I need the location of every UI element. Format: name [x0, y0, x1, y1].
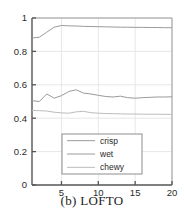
y-tick-label-0.6: 0.6	[14, 79, 27, 90]
chart-legend[interactable]: crispwetchewy	[62, 134, 142, 174]
legend-label-chewy: chewy	[100, 162, 125, 172]
line-chart: 00.20.40.60.81 5101520 crispwetchewy	[0, 0, 184, 196]
y-axis-tick-labels: 00.20.40.60.81	[14, 12, 27, 190]
legend-label-crisp: crisp	[100, 136, 118, 146]
y-tick-label-0.2: 0.2	[14, 146, 27, 157]
y-tick-label-0: 0	[22, 179, 27, 190]
legend-label-wet: wet	[99, 149, 114, 159]
figure-panel: 00.20.40.60.81 5101520 crispwetchewy (b)…	[0, 0, 184, 216]
y-tick-label-1: 1	[22, 12, 27, 23]
y-tick-label-0.4: 0.4	[14, 113, 27, 124]
y-tick-label-0.8: 0.8	[14, 46, 27, 57]
figure-caption: (b) LOFTO	[0, 193, 184, 209]
